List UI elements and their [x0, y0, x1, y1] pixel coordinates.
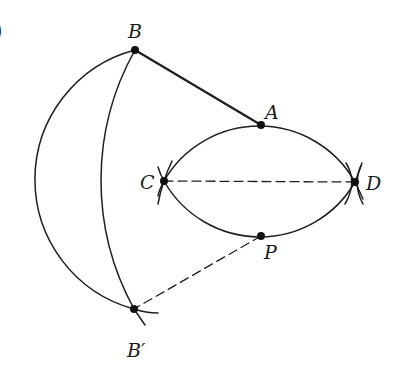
point-c — [160, 177, 168, 185]
geometry-diagram: ) B A C D P B′ — [0, 0, 400, 370]
inner-reflection-arc — [101, 50, 145, 325]
point-b-prime — [130, 305, 138, 313]
point-d — [351, 178, 359, 186]
label-b: B — [127, 20, 142, 42]
lower-lens-arc — [158, 166, 361, 237]
upper-lens-arc — [158, 126, 363, 199]
point-p — [257, 232, 265, 240]
label-p: P — [263, 241, 278, 263]
point-a — [257, 121, 265, 129]
segment-c-d — [164, 181, 355, 182]
point-b — [131, 46, 139, 54]
segment-p-b-prime — [134, 236, 261, 309]
segment-b-a — [135, 50, 261, 125]
label-c: C — [140, 171, 155, 193]
label-b-prime: B′ — [126, 339, 146, 361]
label-d: D — [365, 172, 381, 194]
label-a: A — [263, 101, 279, 123]
cropped-figure-label: ) — [0, 18, 3, 43]
